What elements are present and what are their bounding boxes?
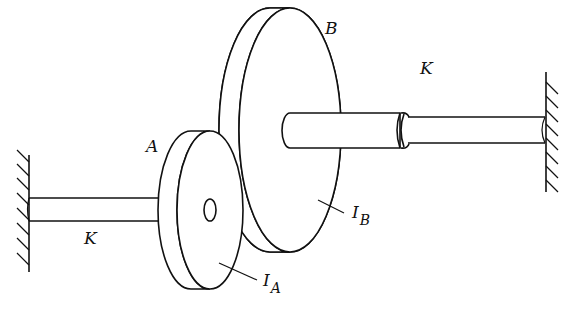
left-shaft [28,198,161,221]
mechanism-drawing [0,0,571,311]
right-fixed-wall [546,72,558,192]
inertia-b-symbol: I [352,202,359,222]
right-shaft [282,113,545,148]
label-left-stiffness: K [84,230,97,247]
label-right-stiffness: K [420,60,433,77]
inertia-a-symbol: I [263,270,270,290]
disk-a [158,131,243,289]
inertia-b-subscript: B [360,212,370,228]
diagram-canvas: B A K K IB IA [0,0,571,311]
label-inertia-a: IA [263,272,281,289]
label-inertia-b: IB [352,204,370,221]
label-disk-b: B [325,20,338,37]
inertia-a-subscript: A [271,280,281,296]
label-disk-a: A [146,138,158,155]
